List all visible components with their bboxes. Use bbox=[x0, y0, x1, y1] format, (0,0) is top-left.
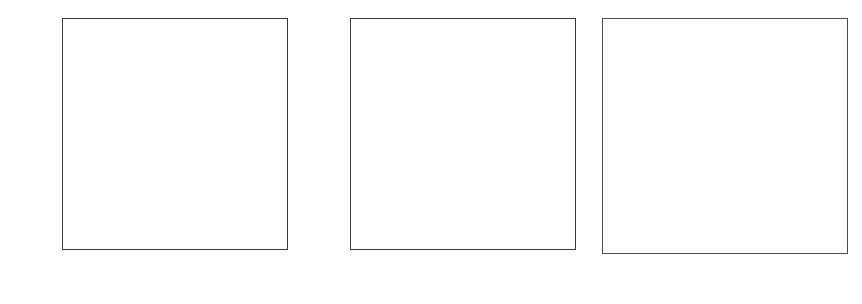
occupancy-map-canvas bbox=[603, 19, 846, 252]
panel-c bbox=[590, 0, 862, 304]
planned-path-a bbox=[62, 18, 288, 250]
occupancy-map-frame bbox=[602, 18, 848, 254]
planned-path-b bbox=[350, 18, 576, 250]
figure-three-panel bbox=[0, 0, 862, 304]
panel-a bbox=[0, 0, 300, 304]
grid-plot-a bbox=[62, 18, 288, 250]
grid-plot-b bbox=[350, 18, 576, 250]
panel-b bbox=[300, 0, 590, 304]
